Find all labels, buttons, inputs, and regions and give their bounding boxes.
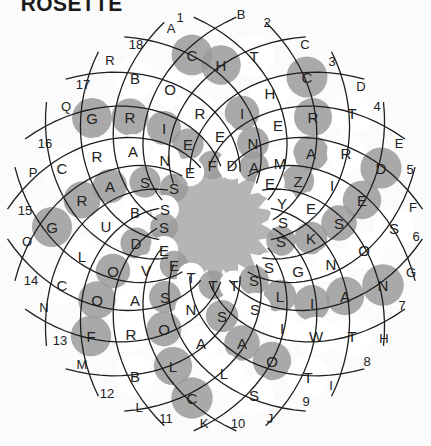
cell-letter: N (326, 256, 337, 273)
cell-letter: S (264, 259, 274, 276)
cell-letter: I (310, 295, 314, 312)
arm-letter-label: H (379, 331, 388, 346)
arm-number-label: 10 (231, 416, 245, 431)
arm-number-label: 1 (176, 10, 183, 25)
cell-letter: N (160, 152, 171, 169)
rosette-puzzle: CTBOHHCTRIERGRIEENARDCRANFDMAEZEIERASSYE… (0, 0, 431, 446)
cell-letter: R (341, 145, 352, 162)
arm-number-label: 5 (406, 162, 413, 177)
cell-letter: B (130, 70, 140, 87)
arm-number-label: 2 (263, 15, 270, 30)
arm-letter-label: E (395, 136, 404, 151)
cell-letter: E (185, 164, 195, 181)
cell-letter: Z (293, 173, 302, 190)
cell-letter: T (303, 369, 312, 386)
cell-letter: A (306, 145, 316, 162)
arm-letter-label: P (29, 165, 38, 180)
arm-number-label: 9 (302, 394, 309, 409)
cell-letter: A (105, 178, 115, 195)
cell-letter: V (141, 262, 151, 279)
arm-number-label: 11 (159, 411, 173, 426)
arm-number-label: 8 (363, 354, 370, 369)
cell-letter: S (250, 301, 260, 318)
cell-letter: A (249, 159, 259, 176)
cell-letter: O (266, 353, 278, 370)
arm-letter-label: O (22, 234, 32, 249)
cell-letter: C (57, 277, 68, 294)
cell-letter: E (183, 136, 193, 153)
cell-letter: H (216, 57, 227, 74)
arm-letter-label: C (300, 37, 309, 52)
cell-letter: R (126, 326, 137, 343)
cell-letter: F (207, 157, 216, 174)
cell-letter: R (308, 109, 319, 126)
cell-letter: E (215, 128, 225, 145)
cell-letter: F (86, 328, 95, 345)
cell-letter: C (187, 390, 198, 407)
cell-letter: S (140, 174, 150, 191)
cell-letter: O (91, 292, 103, 309)
arm-number-label: 7 (398, 298, 405, 313)
cell-letter: S (160, 201, 170, 218)
cell-letter: A (130, 292, 140, 309)
arm-letter-label: A (167, 21, 176, 36)
cell-letter: I (280, 320, 284, 337)
cell-letter: G (86, 110, 98, 127)
cell-letter: E (357, 192, 367, 209)
cell-letter: G (292, 263, 304, 280)
arm-number-label: 4 (373, 99, 380, 114)
cell-letter: E (306, 200, 316, 217)
arm-letter-label: K (200, 416, 209, 431)
cell-letter: A (340, 288, 350, 305)
cell-letter: R (92, 148, 103, 165)
arm-number-label: 17 (76, 77, 90, 92)
arm-letter-label: J (267, 411, 274, 426)
cell-letter: G (46, 219, 58, 236)
cell-letter: O (164, 81, 176, 98)
cell-letter: N (186, 301, 197, 318)
cell-letter: Y (277, 195, 287, 212)
cell-letter: D (376, 160, 387, 177)
cell-letter: I (162, 120, 166, 137)
cell-letter: T (229, 277, 238, 294)
cell-letter: T (249, 48, 258, 65)
cell-letter: E (265, 175, 275, 192)
cell-letter: A (196, 335, 206, 352)
cell-letter: E (159, 242, 169, 259)
cell-letter: S (389, 220, 399, 237)
cell-letter: B (130, 368, 140, 385)
arm-number-label: 12 (100, 386, 114, 401)
cell-letter: I (240, 105, 244, 122)
arm-letter-label: D (356, 79, 365, 94)
cell-letter: R (77, 192, 88, 209)
arm-letter-label: I (329, 378, 333, 393)
arm-number-label: 15 (18, 203, 32, 218)
cell-letter: N (248, 135, 259, 152)
arm-letter-label: Q (61, 99, 71, 114)
cell-letter: T (347, 105, 356, 122)
cell-letter: O (107, 263, 119, 280)
cell-letter: S (249, 387, 259, 404)
cell-letter: S (278, 214, 288, 231)
cell-letter: L (220, 365, 228, 382)
cell-letter: M (274, 155, 287, 172)
arm-letter-label: G (406, 265, 416, 280)
arm-number-label: 18 (129, 37, 143, 52)
cell-letter: T (208, 277, 217, 294)
cell-letter: R (125, 109, 136, 126)
arm-number-label: 3 (328, 54, 335, 69)
cell-letter: K (306, 230, 316, 247)
arm-letter-label: R (105, 53, 114, 68)
cell-letter: C (57, 160, 68, 177)
cell-letter: S (169, 180, 179, 197)
cell-letter: E (273, 117, 283, 134)
cell-letter: S (276, 233, 286, 250)
cell-letter: I (330, 177, 334, 194)
arm-letter-label: M (77, 357, 88, 372)
cell-letter: W (309, 328, 324, 345)
cell-letter: S (249, 272, 259, 289)
cell-letter: N (378, 277, 389, 294)
cell-letter: D (227, 157, 238, 174)
cell-letter: A (237, 335, 247, 352)
arm-letter-label: N (39, 300, 48, 315)
